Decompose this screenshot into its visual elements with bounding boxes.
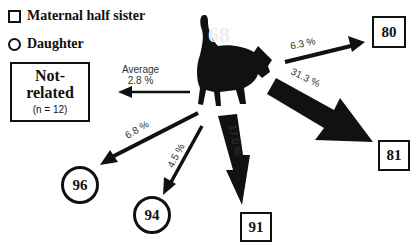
center-id: 68 [208,22,230,48]
node-91: 91 [240,212,272,242]
node-96: 96 [61,166,99,204]
average-label: Average 2.8 % [122,64,159,86]
arrow-81 [267,78,373,142]
not-related-n: (n = 12) [33,105,68,116]
node-81: 81 [378,140,410,171]
average-label-line1: Average [122,64,159,75]
node-not-related: Not- related (n = 12) [10,62,90,122]
node-80: 80 [372,16,406,48]
arrow-not-related [118,86,190,98]
not-related-title: Not- [35,68,65,85]
average-label-line2: 2.8 % [122,75,159,86]
node-94: 94 [133,196,171,234]
not-related-title: related [26,85,74,102]
